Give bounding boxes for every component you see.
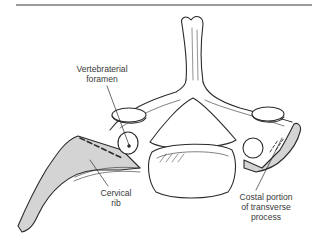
label-vertebraterial-foramen: Vertebraterial foramen — [63, 64, 141, 84]
label-line: Vertebraterial — [63, 64, 141, 74]
left-articular-facet — [112, 108, 146, 122]
label-line: Costal portion — [219, 192, 313, 202]
label-line: of transverse — [219, 202, 313, 212]
vertebral-body — [149, 144, 236, 198]
label-line: process — [219, 212, 313, 222]
label-line: rib — [91, 198, 141, 208]
label-line: foramen — [63, 74, 141, 84]
label-line: Cervical — [91, 188, 141, 198]
right-foramen-transversarium — [243, 138, 263, 158]
label-costal-portion: Costal portion of transverse process — [219, 192, 313, 222]
label-cervical-rib: Cervical rib — [91, 188, 141, 208]
right-articular-facet — [252, 107, 284, 121]
